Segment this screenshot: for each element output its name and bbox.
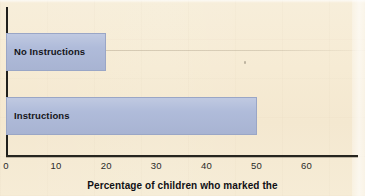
x-axis-shadow <box>6 157 358 158</box>
plot-area: No Instructions Instructions 01020304050… <box>0 0 365 196</box>
bar-label-instructions: Instructions <box>14 110 70 121</box>
x-tick-60: 60 <box>294 160 320 171</box>
x-tick-30: 30 <box>143 160 169 171</box>
x-tick-20: 20 <box>93 160 119 171</box>
bar-label-no-instructions: No Instructions <box>14 46 85 57</box>
x-tick-40: 40 <box>193 160 219 171</box>
bar-chart-screenshot: No Instructions Instructions 01020304050… <box>0 0 365 196</box>
x-tick-10: 10 <box>43 160 69 171</box>
x-tick-50: 50 <box>244 160 270 171</box>
x-tick-0: 0 <box>0 160 19 171</box>
x-axis-caption: Percentage of children who marked the <box>0 180 365 191</box>
